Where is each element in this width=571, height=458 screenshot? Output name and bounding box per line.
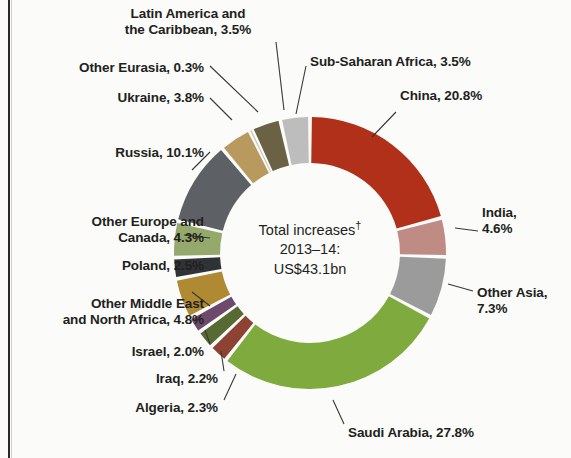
- slice-label: Other Eurasia, 0.3%: [34, 60, 204, 76]
- chart-page: Total increases† 2013–14: US$43.1bn Chin…: [0, 0, 571, 458]
- slice-label: Other Middle East and North Africa, 4.8%: [12, 296, 204, 328]
- slice-label: Ukraine, 3.8%: [48, 90, 204, 106]
- slice-label: Saudi Arabia, 27.8%: [348, 425, 518, 441]
- slice-label: Iraq, 2.2%: [62, 371, 218, 387]
- leader-line: [372, 112, 396, 137]
- leader-line: [276, 42, 284, 110]
- slice-label: Algeria, 2.3%: [52, 400, 218, 416]
- center-line-2: 2013–14:: [280, 241, 340, 257]
- slice-label: Other Asia, 7.3%: [477, 285, 571, 317]
- leader-line: [448, 284, 473, 291]
- center-dagger: †: [355, 219, 361, 231]
- slice-label: China, 20.8%: [400, 88, 560, 104]
- leader-line: [224, 374, 236, 400]
- leader-line: [455, 228, 478, 231]
- donut-center-label: Total increases† 2013–14: US$43.1bn: [215, 218, 405, 280]
- slice-label: Russia, 10.1%: [48, 145, 204, 161]
- leader-line: [210, 98, 232, 120]
- center-line-1: Total increases: [259, 222, 356, 238]
- slice-label: India, 4.6%: [482, 205, 567, 237]
- slice-label: Other Europe and Canada, 4.3%: [22, 214, 204, 246]
- center-line-3: US$43.1bn: [274, 261, 347, 277]
- slice-label: Poland, 2.5%: [46, 258, 204, 274]
- slice-label: Latin America and the Caribbean, 3.5%: [96, 6, 280, 38]
- donut-slice[interactable]: [311, 117, 441, 229]
- leader-line: [333, 400, 344, 424]
- donut-slice[interactable]: [227, 296, 429, 389]
- leader-line: [296, 66, 306, 114]
- slice-label: Israel, 2.0%: [44, 344, 204, 360]
- slice-label: Sub-Saharan Africa, 3.5%: [310, 54, 510, 70]
